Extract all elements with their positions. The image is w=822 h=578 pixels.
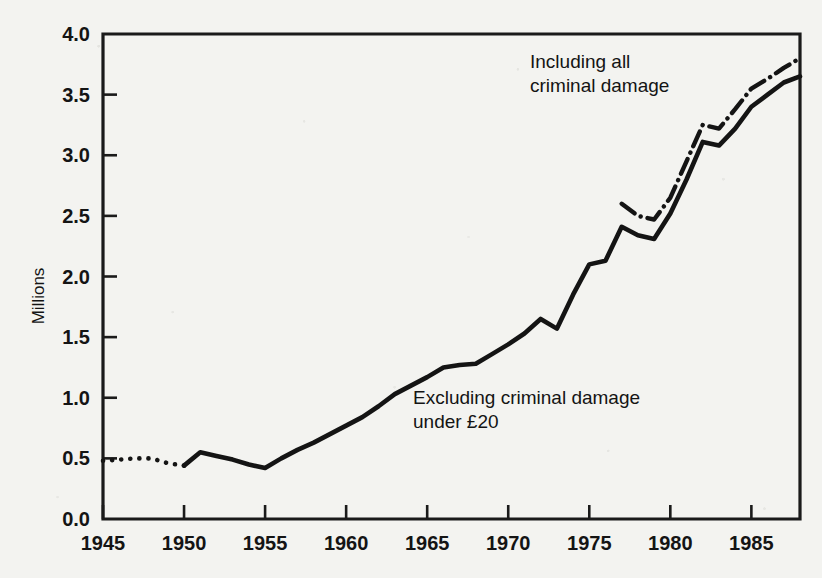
x-tick-label-1960: 1960 xyxy=(324,532,369,554)
y-tick-label-2p0: 2.0 xyxy=(62,266,90,288)
y-axis-title-text: Millions xyxy=(29,268,48,325)
y-axis-tick-labels: 0.00.51.01.52.02.53.03.54.0 xyxy=(62,23,90,530)
annotation-excluding-line1: Excluding criminal damage xyxy=(413,387,640,408)
x-tick-label-1970: 1970 xyxy=(486,532,531,554)
y-tick-label-1p5: 1.5 xyxy=(62,326,90,348)
crime-statistics-line-chart: 0.00.51.01.52.02.53.03.54.0 194519501955… xyxy=(0,0,822,578)
x-tick-label-1955: 1955 xyxy=(243,532,288,554)
y-tick-label-3p5: 3.5 xyxy=(62,84,90,106)
y-tick-label-0p5: 0.5 xyxy=(62,447,90,469)
plot-frame xyxy=(103,34,800,519)
series-excluding-criminal-damage xyxy=(184,76,800,468)
x-tick-label-1965: 1965 xyxy=(405,532,450,554)
y-axis-ticks xyxy=(103,95,117,459)
x-axis-ticks xyxy=(103,505,751,519)
y-tick-label-0p0: 0.0 xyxy=(62,508,90,530)
annotation-excluding-line2: under £20 xyxy=(413,411,499,432)
annotation-including-all: Including all criminal damage xyxy=(530,51,669,96)
y-tick-label-4p0: 4.0 xyxy=(62,23,90,45)
annotation-including-all-line2: criminal damage xyxy=(530,75,669,96)
y-tick-label-3p0: 3.0 xyxy=(62,144,90,166)
axis-frame-path xyxy=(103,34,800,519)
x-tick-label-1980: 1980 xyxy=(648,532,693,554)
x-axis-tick-labels: 194519501955196019651970197519801985 xyxy=(81,532,774,554)
chart-figure: 0.00.51.01.52.02.53.03.54.0 194519501955… xyxy=(0,0,822,578)
y-axis-title: Millions xyxy=(29,268,48,325)
x-tick-label-1985: 1985 xyxy=(729,532,774,554)
y-tick-label-2p5: 2.5 xyxy=(62,205,90,227)
annotation-including-all-line1: Including all xyxy=(530,51,630,72)
y-tick-label-1p0: 1.0 xyxy=(62,387,90,409)
x-tick-label-1950: 1950 xyxy=(162,532,207,554)
annotation-excluding-under-20: Excluding criminal damage under £20 xyxy=(413,387,640,432)
x-tick-label-1975: 1975 xyxy=(567,532,612,554)
x-tick-label-1945: 1945 xyxy=(81,532,126,554)
